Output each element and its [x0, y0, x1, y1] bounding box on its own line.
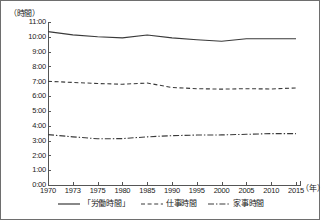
legend-label: 仕事時間	[166, 200, 197, 208]
legend-swatch-dashdot	[208, 201, 230, 207]
y-tick-text: 9:00	[32, 48, 48, 56]
x-tick-label: 2010	[263, 187, 279, 195]
series-line-1	[48, 32, 296, 42]
x-tick-label: 1970	[40, 187, 56, 195]
legend-item-2: 仕事時間	[141, 200, 197, 208]
x-tick-label: 1985	[139, 187, 155, 195]
y-tick-text: 5:00	[32, 107, 48, 115]
series-line-3	[48, 134, 296, 139]
x-tick-label: 1990	[164, 187, 180, 195]
series-lines	[48, 22, 300, 185]
legend-item-3: 家事時間	[208, 200, 264, 208]
y-tick-text: 2:00	[32, 152, 48, 160]
x-tick-label: 1995	[189, 187, 205, 195]
y-tick-text: 11:00	[29, 18, 48, 26]
legend-swatch-solid	[58, 201, 80, 207]
x-tick-label: 1980	[114, 187, 130, 195]
x-tick-label: 1973	[65, 187, 81, 195]
y-tick-text: 3:00	[32, 137, 48, 145]
plot-area	[48, 22, 300, 185]
y-tick-text: 1:00	[32, 166, 48, 174]
y-tick-text: 6:00	[32, 92, 48, 100]
x-axis-unit-label: （年）	[301, 185, 325, 193]
legend-item-1: 「労働時間」	[58, 200, 130, 208]
y-tick-text: 7:00	[32, 78, 48, 86]
series-line-2	[48, 81, 296, 89]
legend-label: 家事時間	[233, 200, 264, 208]
y-tick-text: 4:00	[32, 122, 48, 130]
x-tick-label: 2005	[238, 187, 254, 195]
x-tick-label: 1975	[90, 187, 106, 195]
legend-label: 「労働時間」	[83, 200, 130, 208]
chart-legend: 「労働時間」仕事時間家事時間	[1, 200, 321, 208]
legend-swatch-dashed	[141, 201, 163, 207]
y-tick-text: 10:00	[28, 33, 48, 41]
y-tick-text: 8:00	[32, 63, 48, 71]
x-tick-label: 2000	[214, 187, 230, 195]
